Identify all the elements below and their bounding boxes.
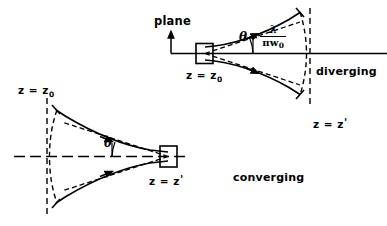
plane-label: plane <box>154 16 191 28</box>
diverging-far-z: z <box>313 118 320 130</box>
converging-angle-arc <box>112 142 115 157</box>
diverging-waist-z-label: z = z0 <box>186 69 222 84</box>
diverging-waist-subscript: 0 <box>217 75 222 84</box>
figure-root: plane diverging converging θ = λ πw0 z =… <box>0 0 387 226</box>
converging-angle-theta-label: θ <box>104 136 112 150</box>
diverging-zprime-label: z = z' <box>313 116 348 130</box>
diverging-waist-equals: = <box>197 69 206 81</box>
diverging-waist-z: z <box>186 69 193 81</box>
divergence-angle-equation: θ = λ πw0 <box>239 24 286 50</box>
equation-denominator-subscript: 0 <box>279 41 285 50</box>
converging-waist-value: z <box>42 84 49 96</box>
equation-denominator-pi: π <box>262 37 270 48</box>
diverging-caption: diverging <box>316 66 377 77</box>
converging-waist-z: z <box>18 84 25 96</box>
converging-far-value: z <box>173 175 180 187</box>
equation-denominator-w: w <box>270 37 279 48</box>
converging-far-z: z <box>149 175 156 187</box>
converging-far-equals: = <box>160 175 169 187</box>
converging-waist-equals: = <box>29 84 38 96</box>
beam-diagram-svg <box>0 0 387 226</box>
diverging-waist-value: z <box>210 69 217 81</box>
equation-denominator: πw0 <box>260 37 286 50</box>
converging-zprime-label: z = z' <box>149 173 184 187</box>
converging-waist-subscript: 0 <box>49 90 54 99</box>
converging-far-prime: ' <box>180 173 184 185</box>
equation-equals: = <box>249 30 258 43</box>
converging-z0-label: z = z0 <box>18 84 54 99</box>
converging-caption: converging <box>233 172 304 183</box>
diverging-far-prime: ' <box>344 116 348 128</box>
diverging-far-value: z <box>337 118 344 130</box>
equation-theta: θ <box>239 30 247 44</box>
diverging-far-equals: = <box>324 118 333 130</box>
equation-numerator-lambda: λ <box>266 24 280 36</box>
equation-fraction: λ πw0 <box>260 24 286 50</box>
